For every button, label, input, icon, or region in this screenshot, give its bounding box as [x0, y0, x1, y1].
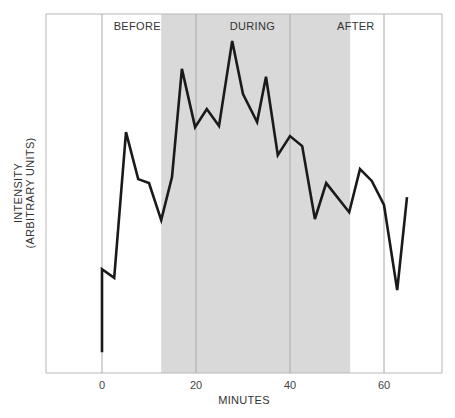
x-tick-label: 40 — [284, 379, 296, 391]
x-tick-label: 60 — [378, 379, 390, 391]
y-axis-title-line1: INTENSITY — [12, 163, 24, 224]
x-axis-title: MINUTES — [218, 394, 270, 406]
phase-label-during: DURING — [230, 20, 275, 32]
y-axis-title: INTENSITY (ARBITRARY UNITS) — [12, 137, 36, 248]
x-tick-label: 0 — [99, 379, 105, 391]
line-chart: BEFOREDURINGAFTER 0204060 MINUTES INTENS… — [0, 0, 455, 418]
x-axis-tick-labels: 0204060 — [99, 379, 390, 391]
phase-label-before: BEFORE — [114, 20, 161, 32]
y-axis-title-line2: (ARBITRARY UNITS) — [24, 137, 36, 248]
x-tick-label: 20 — [190, 379, 202, 391]
phase-label-after: AFTER — [337, 20, 375, 32]
